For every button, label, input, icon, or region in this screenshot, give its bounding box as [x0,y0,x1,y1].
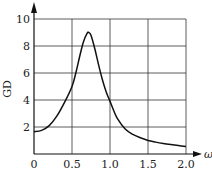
y-tick-label: 10 [16,13,30,26]
grid-lines [34,19,186,154]
y-axis-arrow-icon [31,2,37,13]
y-tick-label: 2 [23,121,30,134]
tick-labels: 00.51.01.52.0246810 [16,13,195,171]
y-tick-label: 4 [23,94,30,107]
axes [31,2,202,157]
x-tick-label: 0 [31,158,38,171]
y-axis-label: GD [1,80,14,98]
x-tick-label: 1.0 [101,158,119,171]
y-tick-label: 8 [23,40,30,53]
chart: 00.51.01.52.0246810 ω GD [0,0,212,171]
x-axis-label: ω [204,148,212,161]
x-tick-label: 0.5 [63,158,81,171]
x-axis-arrow-icon [193,151,202,157]
x-tick-label: 2.0 [177,158,195,171]
y-tick-label: 6 [23,67,30,80]
x-tick-label: 1.5 [139,158,157,171]
